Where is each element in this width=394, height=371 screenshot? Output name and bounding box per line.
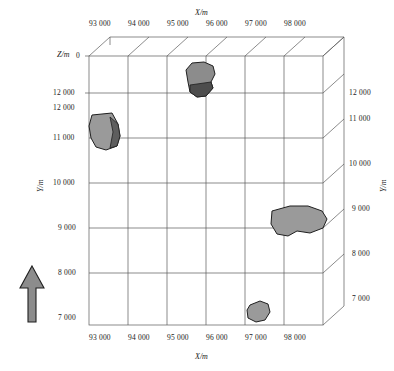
y-tick-right-7000: 7 000 — [352, 294, 370, 303]
y-tick-right-8000: 8 000 — [352, 249, 370, 258]
north-arrow-icon — [20, 266, 44, 322]
x-tick-bottom-3: 96 000 — [206, 333, 228, 342]
z-axis-ticks — [85, 56, 89, 93]
x-tick-bottom-5: 98 000 — [284, 333, 306, 342]
region-3 — [271, 206, 327, 236]
x-tick-top-0: 93 000 — [89, 19, 111, 28]
region-4 — [247, 301, 270, 322]
chart-figure: X/m 93 000 94 000 95 000 96 000 97 000 9… — [0, 0, 394, 371]
x-tick-top-1: 94 000 — [128, 19, 150, 28]
region-2 — [89, 113, 120, 150]
y-tick-right-9000: 9 000 — [352, 204, 370, 213]
y-tick-left-12000: 12 000 — [53, 103, 75, 112]
y-tick-left-9000: 9 000 — [58, 223, 76, 232]
box-top-face — [89, 37, 344, 56]
x-tick-bottom-2: 95 000 — [167, 333, 189, 342]
region-1 — [186, 62, 215, 97]
y-tick-right-10000: 10 000 — [349, 159, 371, 168]
z-tick-1: 12 000 — [53, 88, 75, 97]
x-axis-label-top: X/m — [195, 8, 208, 17]
y-tick-left-11000: 11 000 — [53, 133, 75, 142]
x-tick-bottom-0: 93 000 — [89, 333, 111, 342]
y-tick-left-8000: 8 000 — [58, 268, 76, 277]
z-tick-0: 0 — [76, 51, 80, 60]
x-tick-top-4: 97 000 — [245, 19, 267, 28]
x-tick-top-2: 95 000 — [167, 19, 189, 28]
x-tick-top-5: 98 000 — [284, 19, 306, 28]
box-right-face — [323, 37, 344, 325]
x-tick-bottom-4: 97 000 — [245, 333, 267, 342]
y-tick-right-11000: 11 000 — [349, 114, 371, 123]
z-axis-label: Z/m — [57, 50, 69, 59]
y-axis-label-left: Y/m — [36, 180, 45, 192]
y-tick-left-7000: 7 000 — [58, 313, 76, 322]
x-axis-label-bottom: X/m — [195, 352, 208, 361]
x-tick-bottom-1: 94 000 — [128, 333, 150, 342]
y-axis-label-right: Y/m — [379, 180, 388, 192]
y-tick-right-12000: 12 000 — [349, 88, 371, 97]
y-tick-left-10000: 10 000 — [53, 178, 75, 187]
x-tick-top-3: 96 000 — [206, 19, 228, 28]
